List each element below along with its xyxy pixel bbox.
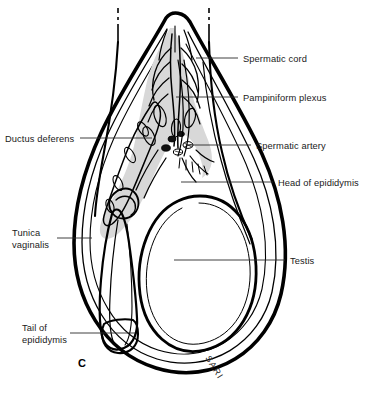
label-tunica-vaginalis-line1: Tunica bbox=[12, 228, 41, 238]
label-pampiniform-plexus: Pampiniform plexus bbox=[243, 93, 327, 103]
label-spermatic-cord: Spermatic cord bbox=[243, 54, 307, 64]
panel-letter: C bbox=[78, 357, 86, 369]
label-tunica-vaginalis-line2: vaginalis bbox=[12, 240, 49, 250]
label-testis: Testis bbox=[290, 256, 315, 266]
anatomy-figure-panel-c: Spermatic cord Pampiniform plexus Ductus… bbox=[0, 0, 370, 398]
label-tail-of-epididymis-line1: Tail of bbox=[22, 323, 47, 333]
label-ductus-deferens: Ductus deferens bbox=[5, 134, 74, 144]
anatomy-diagram-svg: Spermatic cord Pampiniform plexus Ductus… bbox=[0, 0, 370, 398]
label-tail-of-epididymis-line2: epididymis bbox=[22, 335, 67, 345]
label-spermatic-artery: Spermatic artery bbox=[256, 141, 326, 151]
label-head-of-epididymis: Head of epididymis bbox=[278, 178, 359, 188]
